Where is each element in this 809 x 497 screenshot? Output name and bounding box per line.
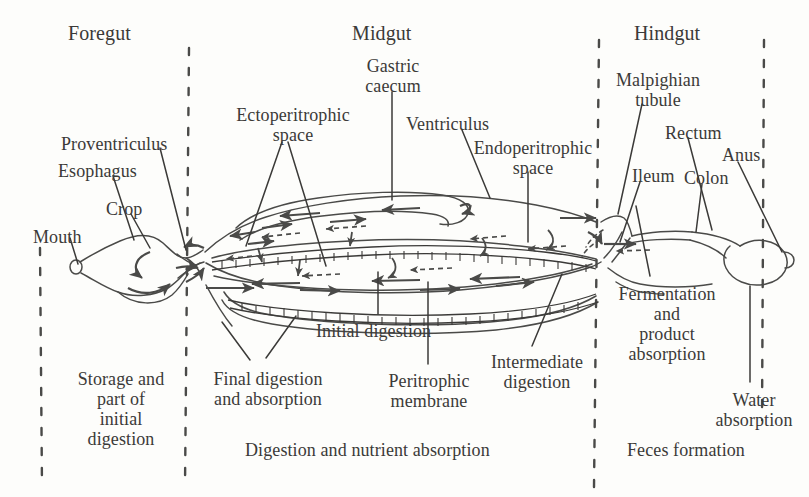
section-label-foregut: Foregut	[68, 22, 131, 44]
peritrophic-membrane	[212, 246, 598, 326]
part-label-anus: Anus	[722, 145, 760, 165]
caption-feces-formation: Feces formation	[627, 440, 745, 460]
leader-anus	[738, 162, 782, 252]
part-label-esophagus: Esophagus	[58, 161, 137, 181]
divider-left-edge	[40, 248, 42, 487]
caption-water-absorption: Water absorption	[702, 390, 806, 430]
part-label-ventriculus: Ventriculus	[406, 114, 489, 134]
part-label-rectum: Rectum	[665, 123, 722, 143]
leader-final-digestion-1	[222, 322, 250, 360]
part-label-ileum: Ileum	[632, 166, 675, 186]
caption-storage-initial-digestion: Storage and part of initial digestion	[62, 369, 180, 450]
divider-right-edge	[762, 40, 764, 420]
part-label-mouth: Mouth	[33, 227, 82, 247]
part-label-endoperitrophic-space: Endoperitrophic space	[468, 138, 598, 178]
leader-proventriculus	[160, 148, 186, 250]
part-label-proventriculus: Proventriculus	[61, 134, 167, 154]
section-label-midgut: Midgut	[352, 22, 412, 44]
part-label-ectoperitrophic-space: Ectoperitrophic space	[228, 105, 358, 145]
caption-initial-digestion: Initial digestion	[316, 321, 431, 341]
part-label-gastric-caecum: Gastric caecum	[353, 56, 433, 96]
caption-intermediate-digestion: Intermediate digestion	[478, 352, 596, 392]
leader-malpighian-tubule	[618, 104, 642, 214]
figure-canvas: Foregut Midgut Hindgut Mouth Esophagus P…	[0, 0, 809, 497]
part-label-crop: Crop	[106, 199, 142, 219]
part-label-colon: Colon	[684, 168, 729, 188]
part-label-malpighian-tubule: Malpighian tubule	[606, 70, 710, 110]
caption-final-digestion-absorption: Final digestion and absorption	[200, 369, 336, 409]
leader-ectoperitrophic-1	[246, 142, 282, 246]
caption-peritrophic-membrane: Peritrophic membrane	[370, 371, 488, 411]
caption-fermentation-product-absorption: Fermentation and product absorption	[608, 284, 726, 365]
leader-colon	[696, 184, 702, 232]
caption-digestion-nutrient-absorption: Digestion and nutrient absorption	[245, 440, 490, 460]
leader-final-digestion-2	[266, 316, 296, 358]
section-label-hindgut: Hindgut	[634, 22, 700, 44]
